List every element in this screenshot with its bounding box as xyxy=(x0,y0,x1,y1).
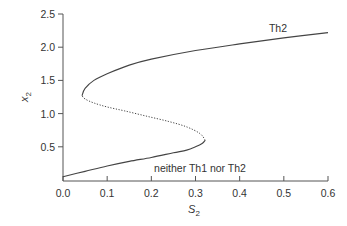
x-tick-label: 0.6 xyxy=(321,187,336,199)
curves xyxy=(63,33,328,177)
y-axis-label: x2 xyxy=(18,91,33,103)
y-tick-label: 1.5 xyxy=(40,74,55,86)
x-tick-label: 0.2 xyxy=(144,187,159,199)
x-tick-label: 0.4 xyxy=(232,187,247,199)
x-tick-label: 0.0 xyxy=(56,187,71,199)
bifurcation-chart: 0.00.10.20.30.40.50.60.51.01.52.02.5 Th2… xyxy=(0,0,347,226)
y-tick-label: 0.5 xyxy=(40,141,55,153)
x-tick-label: 0.3 xyxy=(188,187,203,199)
y-tick-label: 1.0 xyxy=(40,108,55,120)
y-tick-label: 2.5 xyxy=(40,8,55,20)
annotation-neither: neither Th1 nor Th2 xyxy=(154,162,246,174)
curve-unstable-middle xyxy=(82,96,205,140)
y-tick-label: 2.0 xyxy=(40,41,55,53)
curve-stable-upper xyxy=(82,33,328,96)
annotation-th2: Th2 xyxy=(269,22,287,34)
x-tick-label: 0.1 xyxy=(100,187,115,199)
x-tick-label: 0.5 xyxy=(277,187,292,199)
y-axis-label-subscript: 2 xyxy=(24,91,33,96)
x-axis-label-subscript: 2 xyxy=(195,209,200,218)
x-axis-label: S2 xyxy=(188,203,200,218)
